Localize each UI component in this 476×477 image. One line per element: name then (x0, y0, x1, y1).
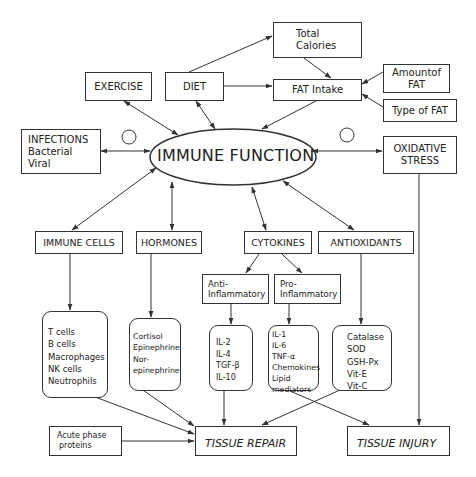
arrow-calories-fat-intake (304, 58, 331, 78)
acute-phase-line-2: proteins (57, 441, 107, 451)
oxidative-stress-box[interactable]: OXIDATIVE STRESS (383, 136, 457, 174)
anti-inflammatory-box[interactable]: Anti- Inflammatory (202, 274, 269, 304)
antioxidants-label: ANTIOXIDANTS (331, 237, 402, 248)
acute-phase-line-1: Acute phase (57, 431, 107, 441)
list-item: TGF-β (216, 360, 240, 372)
list-item: Cortisol (133, 331, 180, 342)
arrow-exercise-immune (124, 101, 178, 135)
tissue-repair-label: TISSUE REPAIR (205, 437, 286, 450)
pro-line-2: Inflammatory (280, 289, 337, 299)
hormones-label: HORMONES (141, 237, 197, 248)
diet-label: DIET (183, 81, 206, 93)
list-item: IL-4 (216, 349, 240, 361)
arrow-cytokines-anti (246, 254, 259, 273)
arrow-fat-intake-immune (262, 101, 316, 129)
list-item: Chemokines (272, 362, 320, 373)
arrow-hormones-repair (143, 390, 194, 426)
oxidative-line-2: STRESS (394, 155, 447, 167)
list-item: Vit-C (347, 380, 384, 392)
tissue-repair-box[interactable]: TISSUE REPAIR (195, 426, 297, 456)
exercise-box[interactable]: EXERCISE (85, 72, 152, 101)
total-calories-line-1: Total (296, 28, 336, 40)
total-calories-line-2: Calories (296, 40, 336, 52)
amount-of-fat-line-1: Amountof (392, 67, 441, 79)
immune-cells-list: T cells B cells Macrophages NK cells Neu… (42, 311, 108, 398)
list-item: Neutrophils (48, 375, 105, 387)
oxidative-line-1: OXIDATIVE (394, 143, 447, 155)
pro-inflammatory-box[interactable]: Pro- Inflammatory (274, 274, 341, 304)
list-item: GSH-Px (347, 356, 384, 368)
arrow-type-fat-intake (362, 94, 383, 107)
antioxidants-list: Catalase SOD GSH-Px Vit-E Vit-C (332, 325, 392, 391)
arrow-amount-fat-intake (362, 72, 383, 84)
total-calories-box[interactable]: Total Calories (273, 22, 362, 58)
list-item: IL-1 (272, 329, 320, 340)
exercise-label: EXERCISE (94, 81, 143, 93)
amount-of-fat-line-2: FAT (392, 79, 441, 91)
list-item: T cells (48, 326, 105, 338)
tissue-injury-label: TISSUE INJURY (357, 437, 436, 450)
list-item: TNF-α (272, 351, 320, 362)
arrow-pro-injury (290, 391, 369, 425)
list-item: epinephrine (133, 365, 180, 376)
type-of-fat-box[interactable]: Type of FAT (383, 99, 457, 122)
immune-cells-label: IMMUNE CELLS (43, 237, 115, 248)
list-item: IL-6 (272, 340, 320, 351)
list-item: Epinephrine (133, 342, 180, 353)
cytokines-box[interactable]: CYTOKINES (244, 231, 312, 254)
immune-cells-box[interactable]: IMMUNE CELLS (35, 231, 123, 254)
list-item: Lipid (272, 373, 320, 384)
anti-line-2: Inflammatory (208, 289, 265, 299)
fat-intake-box[interactable]: FAT Intake (273, 79, 362, 101)
list-item: Catalase (347, 331, 384, 343)
antioxidants-box[interactable]: ANTIOXIDANTS (318, 231, 414, 254)
list-item: IL-2 (216, 337, 240, 349)
arrow-diet-total-calories (189, 36, 272, 72)
list-item: Macrophages (48, 351, 105, 363)
list-item: NK cells (48, 363, 105, 375)
left-circle-marker (122, 130, 136, 144)
infections-title: INFECTIONS (28, 134, 88, 146)
infections-box[interactable]: INFECTIONS Bacterial Viral (21, 129, 101, 174)
arrow-immune-antioxidants (283, 181, 354, 230)
list-item: B cells (48, 338, 105, 350)
hormones-list: Cortisol Epinephrine Nor- epinephrine (129, 318, 181, 391)
list-item: IL-10 (216, 372, 240, 384)
right-circle-marker (340, 128, 354, 142)
anti-inflammatory-list: IL-2 IL-4 TGF-β IL-10 (209, 325, 253, 391)
pro-line-1: Pro- (280, 279, 337, 289)
list-item: Nor- (133, 354, 180, 365)
list-item: SOD (347, 343, 384, 355)
pro-inflammatory-list: IL-1 IL-6 TNF-α Chemokines Lipid mediato… (268, 325, 319, 391)
diet-box[interactable]: DIET (165, 72, 224, 101)
arrow-immune-immune-cells (72, 168, 156, 230)
anti-line-1: Anti- (208, 279, 265, 289)
arrow-immune-cytokines (252, 187, 266, 230)
fat-intake-label: FAT Intake (292, 84, 343, 96)
type-of-fat-label: Type of FAT (392, 105, 448, 117)
infections-bacterial: Bacterial (28, 146, 88, 158)
hormones-box[interactable]: HORMONES (136, 231, 202, 254)
immune-function-label: IMMUNE FUNCTION (157, 146, 314, 165)
list-item: mediators (272, 384, 320, 395)
arrow-cytokines-pro (282, 254, 302, 273)
tissue-injury-box[interactable]: TISSUE INJURY (347, 426, 450, 456)
infections-viral: Viral (28, 158, 88, 170)
list-item: Vit-E (347, 368, 384, 380)
acute-phase-proteins-box[interactable]: Acute phase proteins (49, 426, 122, 456)
amount-of-fat-box[interactable]: Amountof FAT (383, 64, 450, 93)
arrow-diet-immune (196, 101, 215, 129)
cytokines-label: CYTOKINES (251, 237, 305, 248)
